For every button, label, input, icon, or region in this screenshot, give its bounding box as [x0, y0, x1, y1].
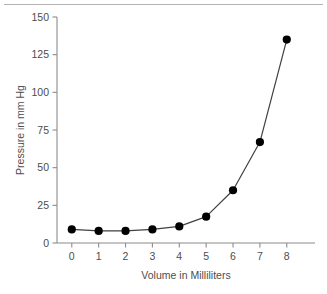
y-axis-title: Pressure in mm Hg: [14, 85, 26, 175]
data-point-marker-4: [175, 222, 183, 230]
y-tick-label: 75: [37, 124, 49, 136]
x-tick-label: 4: [176, 250, 182, 262]
x-tick-label: 8: [284, 250, 290, 262]
top-divider-rule: [4, 4, 323, 5]
x-axis-ticks: [72, 243, 287, 248]
x-tick-label: 2: [123, 250, 129, 262]
data-series-line: [72, 40, 287, 231]
data-point-marker-5: [202, 213, 210, 221]
data-point-marker-8: [283, 36, 291, 44]
y-tick-label: 150: [31, 11, 49, 23]
data-point-marker-2: [121, 227, 129, 235]
x-tick-label: 5: [203, 250, 209, 262]
x-tick-label: 1: [96, 250, 102, 262]
data-point-marker-3: [148, 225, 156, 233]
y-tick-label: 50: [37, 161, 49, 173]
x-tick-label: 0: [69, 250, 75, 262]
y-tick-label: 100: [31, 86, 49, 98]
x-axis-tick-labels: 012345678: [69, 250, 290, 262]
data-point-marker-0: [68, 225, 76, 233]
x-tick-label: 7: [257, 250, 263, 262]
y-axis-ticks: [53, 17, 58, 243]
x-tick-label: 3: [149, 250, 155, 262]
chart-figure: 0255075100125150 012345678 Volume in Mil…: [0, 0, 327, 294]
y-tick-label: 25: [37, 199, 49, 211]
x-tick-label: 6: [230, 250, 236, 262]
data-point-marker-7: [256, 138, 264, 146]
y-tick-label: 125: [31, 48, 49, 60]
y-axis-tick-labels: 0255075100125150: [31, 11, 49, 249]
x-axis-title: Volume in Milliliters: [141, 269, 230, 281]
y-tick-label: 0: [43, 237, 49, 249]
data-point-marker-1: [95, 227, 103, 235]
data-point-markers: [68, 36, 291, 236]
pressure-volume-line-chart: 0255075100125150 012345678 Volume in Mil…: [0, 0, 327, 294]
data-point-marker-6: [229, 186, 237, 194]
